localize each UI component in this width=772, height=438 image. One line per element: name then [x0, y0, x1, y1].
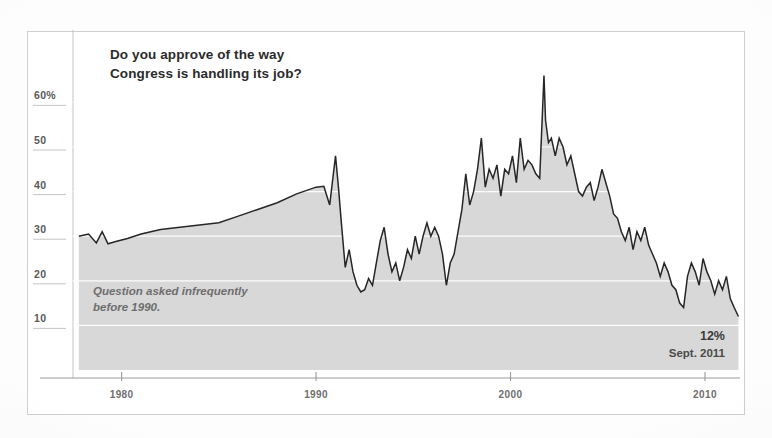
congress-approval-chart: 102030405060% 1980199020002010 Do you ap… [0, 0, 772, 438]
sparse-data-note-line-2: before 1990. [93, 301, 160, 313]
chart-title-line-1: Do you approve of the way [110, 47, 285, 62]
final-value-callout-date: Sept. 2011 [669, 347, 726, 359]
y-axis-label-20: 20 [34, 268, 46, 280]
y-axis-label-60: 60% [34, 89, 56, 101]
y-axis-label-10: 10 [34, 312, 46, 324]
sparse-data-note-line-1: Question asked infrequently [93, 285, 248, 297]
scanned-page: 102030405060% 1980199020002010 Do you ap… [0, 0, 772, 438]
x-axis: 1980199020002010 [40, 372, 740, 400]
final-value-callout-value: 12% [700, 329, 725, 343]
x-axis-label-1990: 1990 [304, 389, 328, 400]
y-axis-label-30: 30 [34, 223, 46, 235]
y-axis-label-40: 40 [34, 179, 46, 191]
y-axis: 102030405060% [33, 30, 73, 378]
y-axis-label-50: 50 [34, 134, 46, 146]
chart-container: 102030405060% 1980199020002010 Do you ap… [0, 0, 772, 438]
x-axis-label-1980: 1980 [110, 389, 134, 400]
x-axis-label-2010: 2010 [693, 389, 717, 400]
x-axis-label-2000: 2000 [499, 389, 523, 400]
chart-title-line-2: Congress is handling its job? [110, 66, 302, 81]
